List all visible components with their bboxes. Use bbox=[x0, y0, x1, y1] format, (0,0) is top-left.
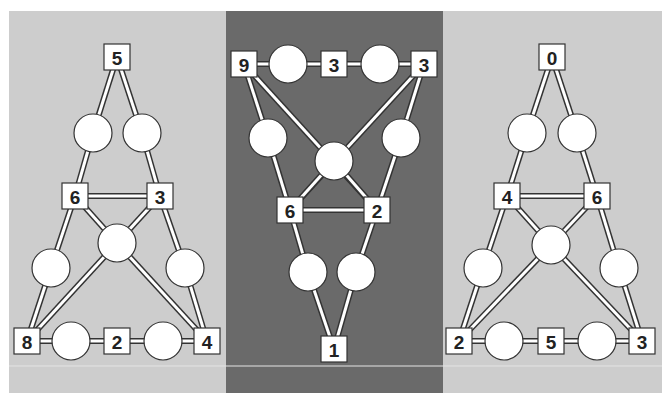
puzzle-left: 563824 bbox=[9, 11, 226, 393]
number-box: 0 bbox=[539, 44, 565, 70]
number-box-value: 3 bbox=[419, 55, 430, 76]
number-box-value: 5 bbox=[546, 332, 557, 353]
number-box-value: 3 bbox=[155, 187, 166, 208]
empty-circle-slot[interactable] bbox=[485, 322, 523, 360]
number-box: 3 bbox=[321, 51, 347, 77]
puzzle-middle: 933621 bbox=[226, 11, 443, 393]
number-box-value: 5 bbox=[112, 48, 123, 69]
number-box-value: 3 bbox=[329, 55, 340, 76]
number-box-value: 4 bbox=[202, 332, 213, 353]
empty-circle-slot[interactable] bbox=[532, 226, 570, 264]
number-box-value: 6 bbox=[592, 187, 603, 208]
number-box-value: 6 bbox=[285, 201, 296, 222]
empty-circle-slot[interactable] bbox=[74, 114, 112, 152]
number-box: 6 bbox=[277, 197, 303, 223]
number-box: 5 bbox=[104, 44, 130, 70]
empty-circle-slot[interactable] bbox=[361, 45, 399, 83]
number-box: 9 bbox=[231, 51, 257, 77]
empty-circle-slot[interactable] bbox=[382, 119, 420, 157]
number-box: 4 bbox=[494, 183, 520, 209]
number-box-value: 8 bbox=[22, 332, 33, 353]
number-box-value: 2 bbox=[454, 332, 465, 353]
number-box-value: 1 bbox=[329, 340, 340, 361]
number-box-value: 2 bbox=[372, 201, 383, 222]
number-box-value: 2 bbox=[112, 332, 123, 353]
empty-circle-slot[interactable] bbox=[123, 114, 161, 152]
empty-circle-slot[interactable] bbox=[558, 114, 596, 152]
empty-circle-slot[interactable] bbox=[578, 322, 616, 360]
number-box-value: 9 bbox=[239, 55, 250, 76]
number-box: 3 bbox=[147, 183, 173, 209]
number-box-value: 6 bbox=[70, 187, 81, 208]
puzzle-board: 563824933621046253 bbox=[0, 0, 669, 404]
number-box: 3 bbox=[411, 51, 437, 77]
empty-circle-slot[interactable] bbox=[52, 322, 90, 360]
empty-circle-slot[interactable] bbox=[464, 249, 502, 287]
number-box-value: 3 bbox=[637, 332, 648, 353]
number-box: 3 bbox=[629, 328, 655, 354]
empty-circle-slot[interactable] bbox=[289, 253, 327, 291]
puzzle-right: 046253 bbox=[443, 11, 662, 393]
empty-circle-slot[interactable] bbox=[32, 249, 70, 287]
number-box: 1 bbox=[321, 336, 347, 362]
number-box: 2 bbox=[446, 328, 472, 354]
empty-circle-slot[interactable] bbox=[315, 142, 353, 180]
number-box: 5 bbox=[538, 328, 564, 354]
empty-circle-slot[interactable] bbox=[166, 249, 204, 287]
empty-circle-slot[interactable] bbox=[337, 253, 375, 291]
number-box: 2 bbox=[364, 197, 390, 223]
number-box: 4 bbox=[194, 328, 220, 354]
number-box: 2 bbox=[104, 328, 130, 354]
number-box-value: 4 bbox=[502, 187, 513, 208]
number-box: 6 bbox=[62, 183, 88, 209]
empty-circle-slot[interactable] bbox=[269, 45, 307, 83]
empty-circle-slot[interactable] bbox=[98, 224, 136, 262]
empty-circle-slot[interactable] bbox=[600, 249, 638, 287]
number-box-value: 0 bbox=[547, 48, 558, 69]
empty-circle-slot[interactable] bbox=[249, 119, 287, 157]
empty-circle-slot[interactable] bbox=[508, 114, 546, 152]
number-box: 8 bbox=[14, 328, 40, 354]
empty-circle-slot[interactable] bbox=[144, 322, 182, 360]
number-box: 6 bbox=[584, 183, 610, 209]
